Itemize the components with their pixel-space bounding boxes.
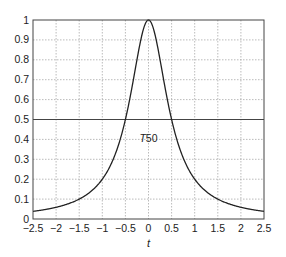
- y-tick-label: 0.9: [14, 33, 29, 45]
- y-tick-label: 0.7: [14, 73, 29, 85]
- y-tick-label: 0.3: [14, 153, 29, 165]
- x-tick-label: −1.5: [69, 222, 90, 234]
- x-tick-label: −2.5: [23, 222, 44, 234]
- y-axis-ticks: 00.10.20.30.40.50.60.70.80.91: [14, 14, 29, 225]
- x-tick-label: 1.5: [210, 222, 225, 234]
- y-tick-label: 0.4: [14, 133, 29, 145]
- x-tick-label: 0.5: [164, 222, 179, 234]
- x-tick-label: −1: [96, 222, 108, 234]
- x-tick-label: 0: [146, 222, 152, 234]
- y-tick-label: 0.1: [14, 193, 29, 205]
- t50-annotation: T50: [139, 132, 157, 144]
- y-tick-label: 0.6: [14, 93, 29, 105]
- x-tick-label: −0.5: [115, 222, 136, 234]
- x-axis-label: t: [147, 237, 151, 249]
- x-axis-ticks: −2.5−2−1.5−1−0.500.511.522.5: [23, 222, 272, 234]
- y-tick-label: 0.5: [14, 113, 29, 125]
- y-tick-label: 0.8: [14, 53, 29, 65]
- x-tick-label: 2: [238, 222, 244, 234]
- x-tick-label: 1: [192, 222, 198, 234]
- x-tick-label: 2.5: [257, 222, 272, 234]
- y-tick-label: 0.2: [14, 173, 29, 185]
- x-tick-label: −2: [50, 222, 62, 234]
- y-tick-label: 1: [23, 14, 29, 26]
- chart: 00.10.20.30.40.50.60.70.80.91 −2.5−2−1.5…: [0, 0, 286, 257]
